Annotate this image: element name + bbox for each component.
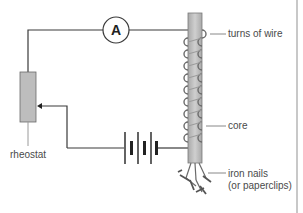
rheostat-icon bbox=[20, 72, 36, 146]
battery-icon bbox=[125, 132, 158, 164]
ammeter-icon: A bbox=[103, 17, 129, 43]
label-or-paperclips: (or paperclips) bbox=[228, 180, 292, 191]
label-iron-nails: iron nails bbox=[228, 168, 268, 179]
label-rheostat: rheostat bbox=[10, 149, 46, 160]
slider-wire bbox=[37, 103, 67, 148]
iron-nails-icon bbox=[178, 163, 211, 194]
label-core: core bbox=[228, 120, 247, 131]
page-border bbox=[296, 0, 298, 213]
svg-text:A: A bbox=[111, 22, 121, 38]
label-turns-of-wire: turns of wire bbox=[228, 28, 282, 39]
leader-lines bbox=[206, 34, 226, 173]
